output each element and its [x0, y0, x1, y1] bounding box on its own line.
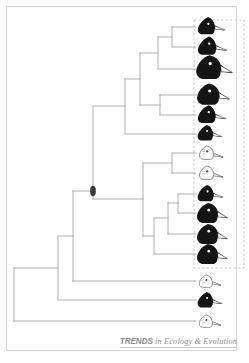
tip-head-t1	[198, 17, 225, 34]
tip-head-t11	[197, 224, 227, 244]
tip-head-t7	[199, 146, 222, 159]
tip-head-t3	[196, 55, 232, 79]
key-node-marker	[90, 186, 95, 196]
tip-head-t2	[198, 36, 227, 54]
figure-root: TRENDS in Ecology & Evolution	[0, 0, 249, 363]
tip-head-t4	[197, 83, 229, 104]
tip-head-t10	[197, 203, 227, 223]
tip-head-t13	[199, 275, 221, 287]
tip-head-t15	[199, 315, 221, 327]
tip-head-t9	[198, 185, 224, 201]
journal-credit-prefix: TRENDS	[120, 337, 153, 346]
tree-branches	[14, 27, 196, 321]
tip-silhouettes	[196, 17, 232, 327]
phylogenetic-tree	[0, 0, 249, 363]
journal-credit: TRENDS in Ecology & Evolution	[120, 337, 237, 348]
tip-head-t6	[198, 125, 223, 141]
tip-head-t12	[197, 244, 227, 264]
journal-credit-rest: in Ecology & Evolution	[153, 337, 237, 346]
tip-head-t5	[198, 105, 226, 123]
tip-head-t8	[199, 166, 222, 179]
tip-head-t14	[198, 292, 223, 308]
